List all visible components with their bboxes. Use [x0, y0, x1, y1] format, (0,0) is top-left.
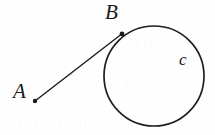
circle-c-label: c: [179, 51, 187, 68]
point-b-label: B: [105, 2, 118, 23]
circle-c: [104, 26, 204, 126]
point-a-dot: [33, 99, 37, 103]
point-a-label: A: [13, 81, 26, 102]
scan-noise: [20, 37, 152, 127]
geometry-figure: A B c: [0, 0, 215, 135]
point-b-dot: [120, 32, 125, 37]
segment-ab: [35, 33, 123, 101]
